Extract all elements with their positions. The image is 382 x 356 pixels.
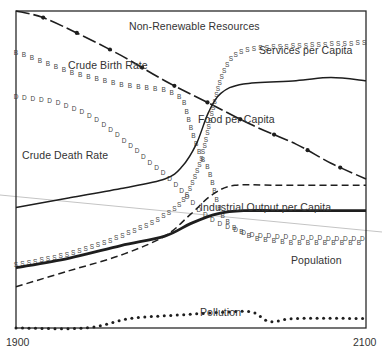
x-axis-end-label: 2100 xyxy=(353,336,376,348)
pollution-dot-marker xyxy=(322,317,325,320)
letter-marker: D xyxy=(31,95,36,102)
letter-marker: B xyxy=(182,99,186,106)
label-food-per-capita: Food per Capita xyxy=(198,113,275,125)
letter-marker: S xyxy=(120,232,125,239)
letter-marker: B xyxy=(161,86,165,93)
pollution-dot-marker xyxy=(329,317,332,320)
letter-marker: D xyxy=(317,234,322,241)
letter-marker: B xyxy=(46,60,50,67)
pollution-dot-marker xyxy=(79,327,82,330)
pollution-dot-marker xyxy=(73,327,76,330)
pollution-dot-marker xyxy=(303,317,306,320)
letter-marker: D xyxy=(360,235,365,242)
letter-marker: B xyxy=(205,163,209,170)
resource-dot-marker xyxy=(108,47,112,51)
letter-marker: D xyxy=(250,231,255,238)
pollution-dot-marker xyxy=(60,327,63,330)
letter-marker: S xyxy=(197,161,202,168)
letter-marker: D xyxy=(343,235,348,242)
resource-dot-marker xyxy=(338,165,342,169)
pollution-dot-marker xyxy=(182,313,185,316)
letter-marker: D xyxy=(267,232,272,239)
pollution-dot-marker xyxy=(290,317,293,320)
letter-marker: B xyxy=(86,73,90,80)
letter-marker: S xyxy=(233,51,238,58)
letter-marker: B xyxy=(136,83,140,90)
letter-marker: S xyxy=(114,234,119,241)
letter-marker: D xyxy=(225,223,230,230)
letter-marker: S xyxy=(126,229,131,236)
letter-marker: S xyxy=(239,48,244,55)
pollution-dot-marker xyxy=(130,317,133,320)
letter-marker: D xyxy=(39,96,44,103)
pollution-dot-marker xyxy=(124,318,127,321)
series-crude-birth-rate: BBBBBBBBBBBBBBBBBBBBBBBBBBBBBBBBBBBBBBBB… xyxy=(14,49,366,246)
letter-marker: B xyxy=(170,89,174,96)
letter-marker: B xyxy=(187,116,191,123)
pollution-dot-marker xyxy=(118,319,121,322)
pollution-dot-marker xyxy=(316,317,319,320)
letter-marker: D xyxy=(179,187,184,194)
letter-marker: S xyxy=(195,167,200,174)
pollution-dot-marker xyxy=(259,315,262,318)
pollution-dot-marker xyxy=(253,311,256,314)
letter-marker: S xyxy=(205,129,210,136)
resource-dot-marker xyxy=(75,31,79,35)
letter-marker: B xyxy=(177,93,181,100)
letter-marker: S xyxy=(216,85,221,92)
pollution-dot-marker xyxy=(277,319,280,322)
resource-dot-marker xyxy=(305,148,309,152)
pollution-dot-marker xyxy=(335,317,338,320)
letter-marker: D xyxy=(258,232,263,239)
letter-marker: S xyxy=(102,239,107,246)
letter-marker: D xyxy=(148,159,153,166)
letter-marker: S xyxy=(71,249,76,256)
letter-marker: B xyxy=(62,66,66,73)
resource-dot-marker xyxy=(205,100,209,104)
letter-marker: D xyxy=(135,147,140,154)
pollution-dot-marker xyxy=(189,313,192,316)
pollution-dot-marker xyxy=(309,317,312,320)
letter-marker: D xyxy=(122,137,127,144)
pollution-dot-marker xyxy=(66,327,69,330)
letter-marker: D xyxy=(72,105,77,112)
pollution-dot-marker xyxy=(34,327,37,330)
pollution-dot-marker xyxy=(111,321,114,324)
pollution-dot-marker xyxy=(176,314,179,317)
letter-marker: S xyxy=(132,227,137,234)
letter-marker: B xyxy=(185,108,189,115)
pollution-dot-marker xyxy=(99,324,102,327)
label-pollution: Pollution xyxy=(200,306,241,318)
letter-marker: D xyxy=(292,234,297,241)
letter-marker: S xyxy=(201,148,206,155)
letter-marker: S xyxy=(84,245,89,252)
letter-marker: D xyxy=(128,142,133,149)
label-non-renewable-resources: Non-Renewable Resources xyxy=(129,20,260,32)
letter-marker: D xyxy=(301,234,306,241)
pollution-dot-marker xyxy=(361,317,364,320)
letter-marker: D xyxy=(47,97,52,104)
letter-marker: S xyxy=(199,155,204,162)
letter-marker: B xyxy=(119,81,123,88)
pollution-dot-marker xyxy=(105,323,108,326)
letter-marker: S xyxy=(362,39,367,46)
pollution-dot-marker xyxy=(195,312,198,315)
letter-marker: B xyxy=(22,51,26,58)
letter-marker: D xyxy=(141,153,146,160)
pollution-dot-marker xyxy=(150,315,153,318)
letter-marker: D xyxy=(191,199,196,206)
pollution-dot-marker xyxy=(86,326,89,329)
letter-marker: D xyxy=(233,226,238,233)
pollution-dot-marker xyxy=(21,327,24,330)
pollution-dot-marker xyxy=(137,316,140,319)
resource-dot-marker xyxy=(41,16,45,20)
letter-marker: S xyxy=(96,241,101,248)
pollution-dot-marker xyxy=(283,318,286,321)
letter-marker: D xyxy=(154,164,159,171)
letter-marker: B xyxy=(128,82,132,89)
letter-marker: B xyxy=(191,132,195,139)
letter-marker: S xyxy=(150,219,155,226)
resource-dot-marker xyxy=(272,132,276,136)
letter-marker: D xyxy=(173,181,178,188)
letter-marker: B xyxy=(30,54,34,61)
